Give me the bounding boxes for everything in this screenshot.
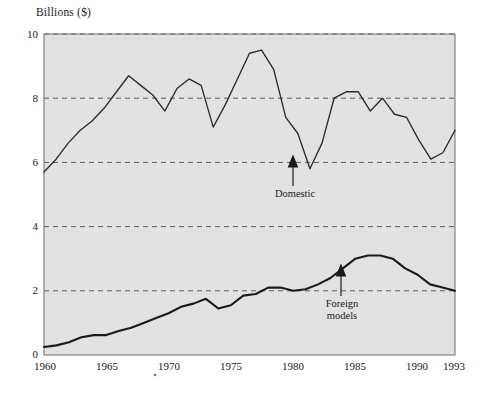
y-tick-label-6: 6 xyxy=(16,156,38,168)
stray-dot-artifact xyxy=(154,374,156,376)
y-tick-label-10: 10 xyxy=(16,28,38,40)
x-tick-label-1960: 1960 xyxy=(25,360,65,372)
x-tick-label-1985: 1985 xyxy=(335,360,375,372)
x-tick-label-1993: 1993 xyxy=(434,360,474,372)
y-axis-title: Billions ($) xyxy=(36,6,91,18)
x-tick-label-1970: 1970 xyxy=(149,360,189,372)
y-tick-label-2: 2 xyxy=(16,284,38,296)
y-tick-label-4: 4 xyxy=(16,220,38,232)
plot-area xyxy=(0,0,480,395)
plot-background xyxy=(44,34,455,355)
x-tick-label-1975: 1975 xyxy=(211,360,251,372)
x-tick-label-1990: 1990 xyxy=(397,360,437,372)
annotation-domestic-line-1: Domestic xyxy=(265,188,325,200)
x-tick-label-1965: 1965 xyxy=(87,360,127,372)
annotation-foreign-models: Foreign models xyxy=(312,298,372,322)
x-tick-label-1980: 1980 xyxy=(273,360,313,372)
chart-figure: Billions ($) 10 8 6 4 2 0 1960 1965 1970… xyxy=(0,0,480,395)
y-tick-label-0: 0 xyxy=(16,348,38,360)
annotation-foreign-line-1: Foreign xyxy=(312,298,372,310)
y-tick-label-8: 8 xyxy=(16,92,38,104)
annotation-domestic: Domestic xyxy=(265,188,325,200)
annotation-foreign-line-2: models xyxy=(312,310,372,322)
